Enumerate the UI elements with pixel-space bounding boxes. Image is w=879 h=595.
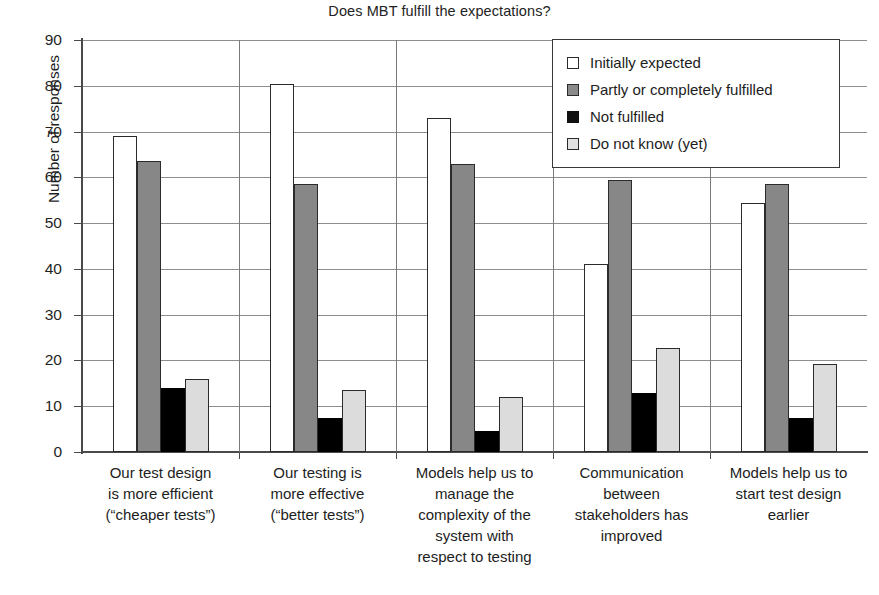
y-tick-label: 40 <box>45 260 62 278</box>
y-tick-mark <box>74 223 83 224</box>
bar <box>137 161 161 452</box>
y-tick-mark <box>74 86 83 87</box>
bar <box>427 118 451 452</box>
y-tick-label: 10 <box>45 397 62 415</box>
bar <box>185 379 209 452</box>
x-axis-category-labels: Our test designis more efficient(“cheape… <box>82 462 867 592</box>
legend-item: Initially expected <box>567 49 827 76</box>
bar <box>113 136 137 452</box>
bar <box>813 364 837 452</box>
y-tick-mark <box>74 177 83 178</box>
y-tick-label: 60 <box>45 168 62 186</box>
x-category-label-line: (“cheaper tests”) <box>82 504 239 525</box>
y-tick-label: 90 <box>45 31 62 49</box>
bar <box>632 393 656 452</box>
legend-label: Not fulfilled <box>590 108 664 125</box>
x-category-label-line: Communication <box>553 462 710 483</box>
x-category-label-line: Our testing is <box>239 462 396 483</box>
bar <box>765 184 789 452</box>
x-tick-mark <box>553 452 554 459</box>
bar <box>475 431 499 452</box>
x-category-label-line: Our test design <box>82 462 239 483</box>
legend-swatch-not-fulfilled <box>567 111 579 123</box>
x-category-label-line: more effective <box>239 483 396 504</box>
bar <box>342 390 366 452</box>
x-category-label: Models help us tostart test designearlie… <box>710 462 867 525</box>
legend-label: Partly or completely fulfilled <box>590 81 773 98</box>
plot-area: Initially expected Partly or completely … <box>82 40 867 452</box>
x-category-label-line: improved <box>553 525 710 546</box>
legend-label: Initially expected <box>590 54 701 71</box>
x-category-label: Models help us tomanage thecomplexity of… <box>396 462 553 567</box>
y-tick-label: 70 <box>45 123 62 141</box>
legend: Initially expected Partly or completely … <box>552 39 840 168</box>
y-tick-mark <box>74 40 83 41</box>
bar <box>656 348 680 452</box>
bar <box>270 84 294 453</box>
bar <box>789 418 813 452</box>
y-tick-mark <box>74 315 83 316</box>
x-category-label-line: system with <box>396 525 553 546</box>
x-category-label: Our test designis more efficient(“cheape… <box>82 462 239 525</box>
x-category-label-line: complexity of the <box>396 504 553 525</box>
bar <box>499 397 523 452</box>
bar <box>161 388 185 452</box>
bar <box>451 164 475 452</box>
y-tick-mark <box>74 360 83 361</box>
bar <box>608 180 632 452</box>
legend-swatch-partly-or-completely-fulfilled <box>567 84 579 96</box>
legend-item: Do not know (yet) <box>567 130 827 157</box>
y-tick-label: 80 <box>45 77 62 95</box>
y-tick-label: 50 <box>45 214 62 232</box>
legend-label: Do not know (yet) <box>590 135 708 152</box>
x-category-label-line: stakeholders has <box>553 504 710 525</box>
y-tick-mark <box>74 269 83 270</box>
bar <box>584 264 608 452</box>
y-axis-tick-labels: 0102030405060708090 <box>0 40 72 452</box>
x-category-label-line: between <box>553 483 710 504</box>
y-tick-mark <box>74 132 83 133</box>
x-category-label-line: respect to testing <box>396 546 553 567</box>
x-category-label: Communicationbetweenstakeholders hasimpr… <box>553 462 710 546</box>
x-category-label-line: Models help us to <box>396 462 553 483</box>
x-category-label-line: start test design <box>710 483 867 504</box>
bar <box>318 418 342 452</box>
x-category-label-line: is more efficient <box>82 483 239 504</box>
y-tick-label: 20 <box>45 351 62 369</box>
y-tick-mark <box>74 406 83 407</box>
x-tick-mark <box>239 452 240 459</box>
x-category-label: Our testing ismore effective(“better tes… <box>239 462 396 525</box>
legend-swatch-do-not-know-yet <box>567 138 579 150</box>
x-category-label-line: (“better tests”) <box>239 504 396 525</box>
chart-title: Does MBT fulfill the expectations? <box>0 3 879 19</box>
x-category-label-line: manage the <box>396 483 553 504</box>
legend-swatch-initially-expected <box>567 57 579 69</box>
y-tick-label: 0 <box>53 443 62 461</box>
bar <box>294 184 318 452</box>
legend-item: Not fulfilled <box>567 103 827 130</box>
x-category-label-line: earlier <box>710 504 867 525</box>
bar-chart: Does MBT fulfill the expectations? Numbe… <box>0 0 879 595</box>
x-category-label-line: Models help us to <box>710 462 867 483</box>
x-tick-mark <box>396 452 397 459</box>
y-tick-mark <box>74 452 83 453</box>
x-tick-mark <box>710 452 711 459</box>
legend-item: Partly or completely fulfilled <box>567 76 827 103</box>
bar <box>741 203 765 452</box>
y-tick-label: 30 <box>45 306 62 324</box>
